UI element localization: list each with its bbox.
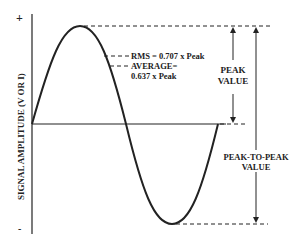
average-label-2: 0.637 x Peak [131,71,177,81]
plus-label: + [16,11,23,25]
rms-label: RMS = 0.707 x Peak [131,51,205,61]
p2p-label-1: PEAK-TO-PEAK [223,152,288,162]
average-label-1: AVERAGE= [131,61,177,71]
minus-label: - [18,223,21,234]
p2p-label-2: VALUE [242,162,271,172]
peak-label-2: VALUE [218,76,248,86]
peak-label-1: PEAK [220,65,245,75]
y-axis-label: SIGNAL AMPLITUDE (V OR I) [16,73,26,200]
sine-wave-diagram: + - SIGNAL AMPLITUDE (V OR I) RMS = 0.70… [0,0,298,247]
